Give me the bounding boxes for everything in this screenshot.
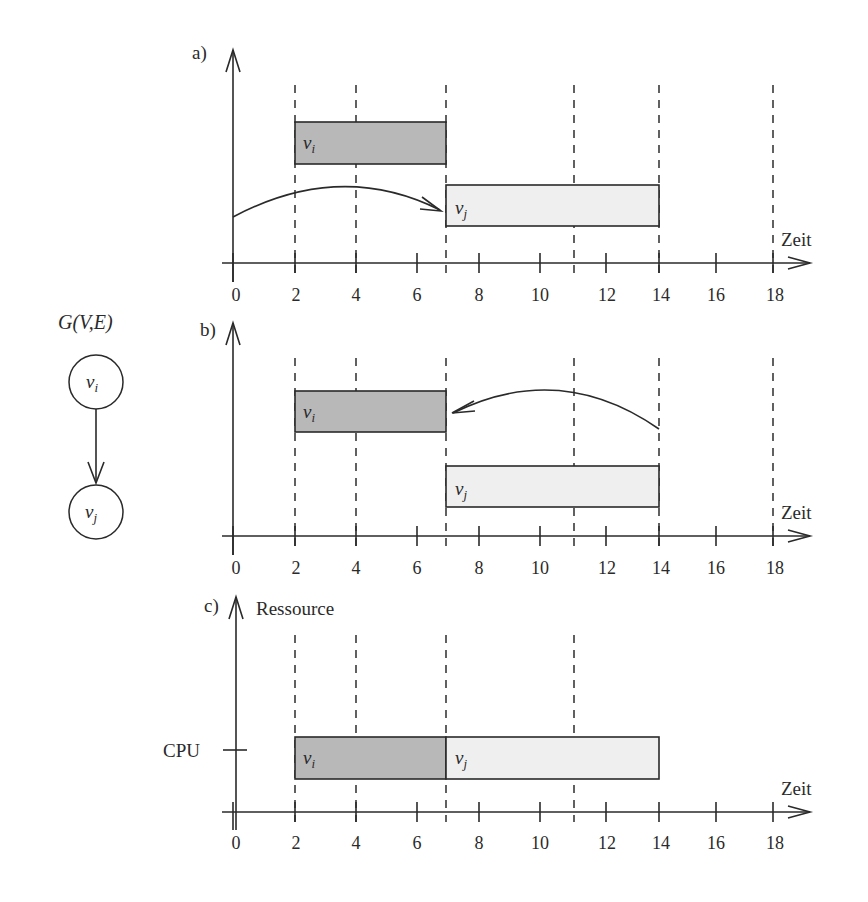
svg-text:2: 2 (292, 558, 301, 578)
panel-b-dependency-arc (453, 390, 659, 429)
panel-c-tick-labels: 0 2 4 6 8 10 12 14 16 18 (232, 833, 785, 853)
graph-title: G(V,E) (58, 311, 113, 334)
svg-text:14: 14 (652, 833, 670, 853)
panel-a-x-label: Zeit (781, 229, 812, 250)
svg-text:0: 0 (232, 285, 241, 305)
panel-a-ticks (233, 253, 773, 282)
panel-c-label: c) (204, 595, 219, 617)
panel-c-ticks (233, 802, 773, 830)
svg-text:12: 12 (598, 285, 616, 305)
panel-b-label: b) (200, 319, 216, 341)
panel-b-arc-arrowhead-icon (452, 401, 475, 413)
panel-b-x-label: Zeit (781, 502, 812, 523)
panel-a-tick-labels: 0 2 4 6 8 10 12 14 16 18 (232, 285, 785, 305)
svg-text:16: 16 (707, 833, 725, 853)
panel-a: a) (192, 42, 812, 305)
svg-text:4: 4 (352, 833, 361, 853)
panel-b-bar-v-j (446, 466, 659, 507)
svg-text:4: 4 (352, 285, 361, 305)
panel-c-bar-v-i (295, 737, 446, 779)
svg-text:2: 2 (292, 833, 301, 853)
svg-text:12: 12 (598, 833, 616, 853)
panel-b-bar-v-i (295, 391, 446, 432)
panel-b: b) 0 (200, 319, 812, 578)
panel-c-bar-v-j (446, 737, 659, 779)
svg-text:10: 10 (531, 558, 549, 578)
svg-text:0: 0 (232, 558, 241, 578)
svg-text:6: 6 (413, 285, 422, 305)
diagram-canvas: G(V,E) vi vj a) (0, 0, 868, 902)
panel-c-cpu-label: CPU (163, 740, 200, 761)
svg-text:4: 4 (352, 558, 361, 578)
panel-a-bar-v-j (446, 185, 659, 226)
svg-text:0: 0 (232, 833, 241, 853)
panel-c-y-label: Ressource (256, 598, 334, 619)
svg-text:14: 14 (652, 558, 670, 578)
svg-text:8: 8 (475, 558, 484, 578)
svg-text:12: 12 (598, 558, 616, 578)
panel-c: c) Ressource CPU (163, 595, 812, 853)
svg-text:8: 8 (475, 833, 484, 853)
svg-text:18: 18 (766, 558, 784, 578)
panel-b-tick-labels: 0 2 4 6 8 10 12 14 16 18 (232, 558, 785, 578)
svg-text:18: 18 (766, 285, 784, 305)
svg-text:6: 6 (413, 558, 422, 578)
task-graph: G(V,E) vi vj (58, 311, 123, 539)
panel-a-label: a) (192, 42, 207, 64)
svg-text:16: 16 (707, 558, 725, 578)
svg-text:18: 18 (766, 833, 784, 853)
svg-text:14: 14 (652, 285, 670, 305)
panel-c-x-label: Zeit (781, 778, 812, 799)
panel-a-arc-arrowhead-icon (420, 197, 441, 211)
svg-text:10: 10 (531, 285, 549, 305)
svg-text:10: 10 (531, 833, 549, 853)
panel-a-dependency-arc (233, 187, 440, 217)
panel-a-bar-v-i (295, 122, 446, 164)
svg-text:6: 6 (413, 833, 422, 853)
panel-b-ticks (233, 526, 773, 555)
svg-text:8: 8 (475, 285, 484, 305)
svg-text:16: 16 (707, 285, 725, 305)
svg-text:2: 2 (292, 285, 301, 305)
scheduling-diagram: G(V,E) vi vj a) (0, 0, 868, 902)
